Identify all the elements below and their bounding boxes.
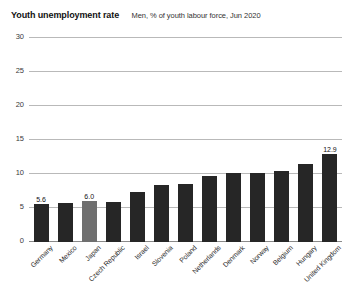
bar-column[interactable] bbox=[106, 38, 121, 242]
bar[interactable] bbox=[274, 171, 289, 242]
bar-column[interactable]: 5.6 bbox=[34, 38, 49, 242]
x-axis-tick-label: Slovenia bbox=[150, 244, 173, 267]
bar[interactable] bbox=[82, 201, 97, 242]
bar[interactable] bbox=[130, 192, 145, 242]
y-axis-tick-label: 5 bbox=[20, 202, 24, 211]
chart-header: Youth unemployment rate Men, % of youth … bbox=[11, 4, 261, 22]
bar[interactable] bbox=[154, 185, 169, 242]
bar-column[interactable] bbox=[178, 38, 193, 242]
bar-column[interactable] bbox=[250, 38, 265, 242]
bar-value-label: 12.9 bbox=[323, 146, 337, 153]
bar-series: 5.66.012.9 bbox=[29, 38, 342, 242]
chart-title: Youth unemployment rate bbox=[11, 10, 119, 20]
x-axis-tick-label: Denmark bbox=[222, 244, 247, 269]
plot-area: 051015202530 5.66.012.9 bbox=[29, 38, 342, 242]
y-axis-tick-label: 25 bbox=[16, 66, 24, 75]
bar-column[interactable] bbox=[58, 38, 73, 242]
y-axis-tick-label: 20 bbox=[16, 100, 24, 109]
bar-column[interactable] bbox=[154, 38, 169, 242]
x-axis-tick-label: Germany bbox=[29, 244, 54, 269]
y-axis-tick-label: 30 bbox=[16, 32, 24, 41]
bar[interactable] bbox=[178, 184, 193, 242]
bar[interactable] bbox=[298, 164, 313, 242]
x-axis-tick-label: Mexico bbox=[57, 244, 77, 264]
bar-column[interactable] bbox=[298, 38, 313, 242]
bar[interactable] bbox=[34, 204, 49, 242]
y-axis-tick-label: 10 bbox=[16, 168, 24, 177]
chart-subtitle: Men, % of youth labour force, Jun 2020 bbox=[132, 11, 261, 20]
bar[interactable] bbox=[250, 173, 265, 242]
bar[interactable] bbox=[322, 154, 337, 242]
bar[interactable] bbox=[226, 173, 241, 242]
x-axis-labels: GermanyMexicoJapanCzech RepublicIsraelSl… bbox=[29, 244, 342, 302]
bar-column[interactable] bbox=[274, 38, 289, 242]
x-axis-tick-label: Poland bbox=[178, 244, 198, 264]
bar-column[interactable]: 12.9 bbox=[322, 38, 337, 242]
bar-column[interactable] bbox=[130, 38, 145, 242]
y-axis-tick-label: 0 bbox=[20, 236, 24, 245]
x-axis-tick-label: Belgium bbox=[272, 244, 294, 266]
bar[interactable] bbox=[58, 203, 73, 242]
x-axis-tick-label: Japan bbox=[84, 244, 102, 262]
bar-value-label: 5.6 bbox=[36, 196, 46, 203]
x-axis-tick-label: Israel bbox=[133, 244, 150, 261]
bar-column[interactable]: 6.0 bbox=[82, 38, 97, 242]
bar-column[interactable] bbox=[226, 38, 241, 242]
x-axis-tick-label: Hungary bbox=[295, 244, 318, 267]
bar-column[interactable] bbox=[202, 38, 217, 242]
x-axis-tick-label: Norway bbox=[249, 244, 270, 265]
bar-value-label: 6.0 bbox=[84, 193, 94, 200]
bar[interactable] bbox=[106, 202, 121, 242]
bar[interactable] bbox=[202, 176, 217, 242]
y-axis-tick-label: 15 bbox=[16, 134, 24, 143]
